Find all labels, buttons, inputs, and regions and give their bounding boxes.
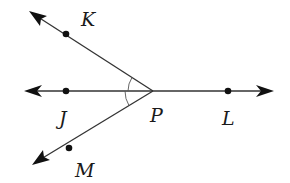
label-p: P — [149, 104, 164, 126]
label-l: L — [221, 107, 235, 129]
point-j — [63, 88, 70, 95]
point-l — [225, 88, 232, 95]
ray-pm — [41, 91, 153, 159]
geometry-diagram: K J P L M — [0, 0, 290, 183]
label-m: M — [74, 159, 95, 181]
point-k — [63, 31, 70, 38]
point-m — [66, 145, 73, 152]
angle-arc-kpj — [128, 78, 132, 92]
angle-arc-jpm — [125, 91, 129, 106]
arrowhead-m-icon — [32, 150, 50, 165]
ray-pk — [38, 17, 153, 91]
label-k: K — [80, 8, 97, 30]
arrowhead-k-icon — [29, 11, 47, 26]
label-j: J — [55, 107, 68, 129]
